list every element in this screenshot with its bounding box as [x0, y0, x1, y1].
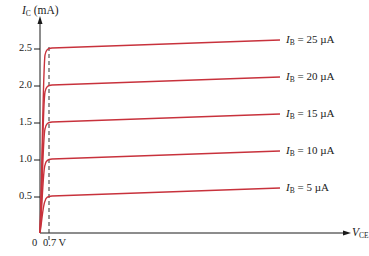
y-tick-label: 1.0 [8, 154, 32, 165]
series-label-ib-10: IB = 10 µA [286, 145, 334, 156]
x-axis-arrow-icon [343, 231, 351, 236]
y-tick-label: 2.0 [8, 80, 32, 91]
y-tick-label: 2.5 [8, 43, 32, 54]
y-tick-label: 1.5 [8, 117, 32, 128]
x-tick-label-knee: 0.7 V [43, 238, 66, 249]
curves [40, 40, 280, 233]
curve-ib-25 [40, 40, 280, 233]
series-label-ib-5: IB = 5 µA [286, 182, 329, 193]
series-label-ib-20: IB = 20 µA [286, 71, 334, 82]
y-axis-arrow-icon [38, 16, 43, 24]
x-axis-label: VCE [352, 227, 369, 239]
series-label-ib-15: IB = 15 µA [286, 108, 334, 119]
curve-ib-15 [40, 114, 280, 233]
curve-ib-5 [40, 188, 280, 233]
y-axis-label: IC (mA) [22, 5, 59, 17]
y-tick-label: 0.5 [8, 191, 32, 202]
x-tick-label-zero: 0 [32, 238, 37, 249]
series-label-ib-25: IB = 25 µA [286, 34, 334, 45]
y-ticks [34, 49, 40, 197]
